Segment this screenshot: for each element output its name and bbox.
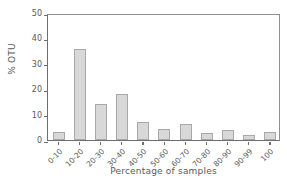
bar-slot <box>217 15 238 140</box>
y-tick-label: 20 <box>22 85 42 94</box>
bars-container <box>48 15 279 140</box>
x-tick-mark <box>142 142 143 145</box>
y-tick-label: 40 <box>22 34 42 43</box>
x-tick-mark <box>248 142 249 145</box>
bar-slot <box>196 15 217 140</box>
bar <box>137 122 149 140</box>
bar-slot <box>69 15 90 140</box>
bar <box>116 94 128 140</box>
bar <box>158 129 170 140</box>
y-tick-label: 0 <box>22 136 42 145</box>
x-tick-mark <box>121 142 122 145</box>
y-tick-label: 50 <box>22 9 42 18</box>
x-tick-mark <box>185 142 186 145</box>
y-tick-mark <box>44 65 48 66</box>
x-tick-mark <box>227 142 228 145</box>
bar <box>243 135 255 140</box>
y-tick-mark <box>44 116 48 117</box>
bar <box>264 132 276 140</box>
bar <box>74 49 86 140</box>
bar <box>180 124 192 140</box>
x-tick-mark <box>100 142 101 145</box>
bar-slot <box>260 15 281 140</box>
bar <box>53 132 65 140</box>
bar <box>222 130 234 140</box>
x-tick-mark <box>164 142 165 145</box>
bar-chart-figure: % OTU 01020304050 0-1010-2020-3030-4040-… <box>0 0 287 182</box>
x-tick-mark <box>269 142 270 145</box>
bar-slot <box>112 15 133 140</box>
plot-area: 01020304050 <box>47 14 280 141</box>
bar-slot <box>48 15 69 140</box>
x-tick-mark <box>58 142 59 145</box>
y-tick-mark <box>44 15 48 16</box>
bar-slot <box>154 15 175 140</box>
y-tick-mark <box>44 40 48 41</box>
bar-slot <box>133 15 154 140</box>
bar-slot <box>90 15 111 140</box>
bar-slot <box>175 15 196 140</box>
bar <box>95 104 107 140</box>
y-tick-label: 10 <box>22 111 42 120</box>
bar-slot <box>239 15 260 140</box>
y-tick-mark <box>44 91 48 92</box>
bar <box>201 133 213 140</box>
y-axis-title: % OTU <box>7 24 17 94</box>
x-axis-title: Percentage of samples <box>47 166 280 176</box>
x-axis-ticks: 0-1010-2020-3030-4040-5050-6060-7070-808… <box>47 142 280 166</box>
x-tick-mark <box>206 142 207 145</box>
x-tick-mark <box>79 142 80 145</box>
y-tick-label: 30 <box>22 60 42 69</box>
